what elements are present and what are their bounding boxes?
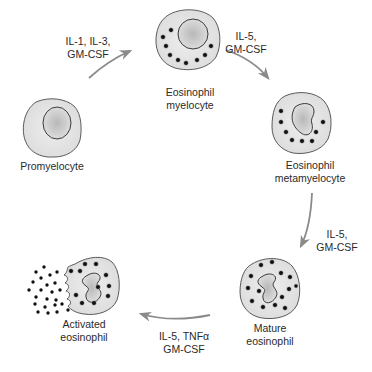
eosinophil-myelocyte-cell bbox=[156, 10, 220, 70]
mature-eosinophil-cell bbox=[240, 259, 300, 319]
label-transition-4: IL-5, TNFα GM-CSF bbox=[159, 330, 209, 356]
activated-eosinophil-cell bbox=[27, 257, 119, 314]
label-eosinophil-myelocyte: Eosinophil myelocyte bbox=[166, 86, 214, 112]
promyelocyte-cell bbox=[23, 99, 81, 157]
label-transition-1: IL-1, IL-3, GM-CSF bbox=[66, 35, 111, 61]
arrow-metamyelocyte-to-mature bbox=[301, 193, 312, 246]
diagram-canvas bbox=[0, 0, 372, 372]
label-transition-2: IL-5, GM-CSF bbox=[225, 30, 266, 56]
label-mature-eosinophil: Mature eosinophil bbox=[246, 322, 293, 348]
label-promyelocyte: Promyelocyte bbox=[20, 160, 84, 173]
label-activated-eosinophil: Activated eosinophil bbox=[60, 318, 107, 344]
arrow-mature-to-activated bbox=[141, 314, 210, 319]
eosinophil-metamyelocyte-cell bbox=[272, 93, 331, 154]
label-eosinophil-metamyelocyte: Eosinophil metamyelocyte bbox=[275, 159, 346, 185]
label-transition-3: IL-5, GM-CSF bbox=[316, 228, 357, 254]
released-granules bbox=[27, 265, 69, 314]
